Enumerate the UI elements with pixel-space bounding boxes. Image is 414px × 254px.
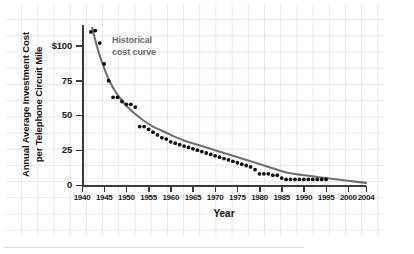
data-point [209, 152, 213, 156]
data-point-group [89, 29, 328, 182]
data-point [182, 144, 186, 148]
data-point [164, 137, 168, 141]
data-point [227, 158, 231, 162]
data-point [249, 165, 253, 169]
data-point [116, 95, 120, 99]
data-point [120, 100, 124, 104]
data-point [266, 172, 270, 176]
data-point [102, 62, 106, 66]
data-point [324, 178, 328, 182]
data-point [173, 141, 177, 145]
data-point [111, 95, 115, 99]
data-point [320, 178, 324, 182]
data-point [138, 125, 142, 129]
data-point [178, 143, 182, 147]
data-point [240, 162, 244, 166]
data-point [218, 155, 222, 159]
data-point [235, 161, 239, 165]
data-point [156, 133, 160, 137]
data-point [302, 178, 306, 182]
data-point [222, 157, 226, 161]
data-point [271, 173, 275, 177]
chart-figure: 0255075$100 1940194519501955196019651970… [0, 0, 414, 254]
data-point [262, 172, 266, 176]
data-point [280, 176, 284, 180]
data-point [213, 154, 217, 158]
data-point [133, 105, 137, 109]
data-point [195, 148, 199, 152]
data-point [311, 178, 315, 182]
data-point [151, 130, 155, 134]
data-point [275, 173, 279, 177]
data-point [306, 178, 310, 182]
data-point [89, 30, 93, 34]
data-point [231, 159, 235, 163]
data-point [129, 102, 133, 106]
data-point [147, 127, 151, 131]
data-point [200, 150, 204, 154]
data-point [293, 178, 297, 182]
data-point [258, 172, 262, 176]
chart-plot-layer [0, 0, 414, 254]
data-point [142, 125, 146, 129]
data-point [160, 136, 164, 140]
data-point [107, 79, 111, 83]
data-point [124, 102, 128, 106]
data-point [191, 147, 195, 151]
data-point [169, 140, 173, 144]
data-point [93, 29, 97, 33]
data-point [187, 146, 191, 150]
data-point [298, 178, 302, 182]
data-point [289, 178, 293, 182]
data-point [204, 151, 208, 155]
data-point [284, 178, 288, 182]
data-point [98, 41, 102, 45]
data-point [244, 164, 248, 168]
data-point [315, 178, 319, 182]
data-point [253, 168, 257, 172]
